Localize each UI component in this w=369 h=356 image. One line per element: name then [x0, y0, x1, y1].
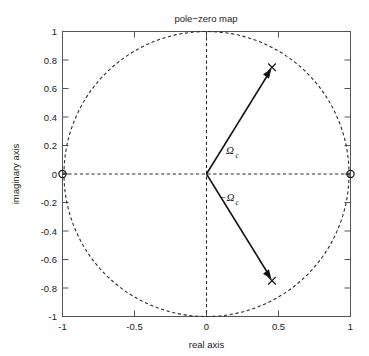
pole-zero-map-figure: pole−zero map: [0, 0, 369, 356]
x-axis-label: real axis: [189, 339, 225, 350]
x-tick-label: -1: [58, 321, 66, 332]
chart-title: pole−zero map: [174, 13, 237, 24]
y-tick-label: 1: [52, 26, 57, 37]
x-tick-label: 0: [204, 321, 209, 332]
omega-c-symbol: Ω: [226, 144, 234, 156]
plot-canvas: pole−zero map: [0, 0, 369, 356]
y-tick-label: 0.2: [44, 140, 57, 151]
y-tick-label: -0.6: [41, 254, 57, 265]
y-tick-label: 0.4: [44, 112, 57, 123]
x-tick-label: 0.5: [272, 321, 285, 332]
y-tick-label: -1: [49, 311, 57, 322]
y-axis-label: imaginary axis: [10, 143, 21, 204]
y-tick-label: -0.2: [41, 197, 57, 208]
x-tick-label: -0.5: [126, 321, 142, 332]
y-tick-label: -0.4: [41, 226, 57, 237]
x-tick-label: 1: [348, 321, 353, 332]
y-tick-label: 0: [52, 169, 57, 180]
y-tick-label: -0.8: [41, 283, 57, 294]
y-tick-label: 0.8: [44, 55, 57, 66]
negative-omega-c-symbol: −Ω: [219, 191, 234, 203]
y-tick-label: 0.6: [44, 83, 57, 94]
